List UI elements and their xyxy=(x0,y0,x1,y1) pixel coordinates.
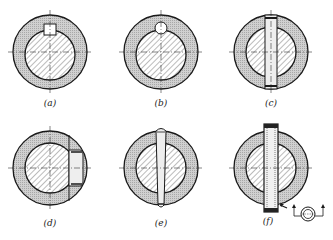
panel-e: (e) xyxy=(119,129,203,229)
panel-a: (a) xyxy=(8,10,92,108)
panel-label-f: (f) xyxy=(263,216,274,226)
spring-pin-section-inset xyxy=(292,204,325,221)
panel-d: (d) xyxy=(8,126,92,228)
figure-canvas: (a) (b) (c) (d) xyxy=(0,0,333,240)
panel-label-c: (c) xyxy=(265,98,278,108)
panel-label-b: (b) xyxy=(155,98,168,108)
panel-b: (b) xyxy=(119,10,203,108)
panel-label-d: (d) xyxy=(44,218,57,228)
panel-f: (f) xyxy=(229,124,313,226)
panel-c: (c) xyxy=(229,10,313,108)
panel-label-e: (e) xyxy=(155,218,168,228)
panel-label-a: (a) xyxy=(44,98,57,108)
